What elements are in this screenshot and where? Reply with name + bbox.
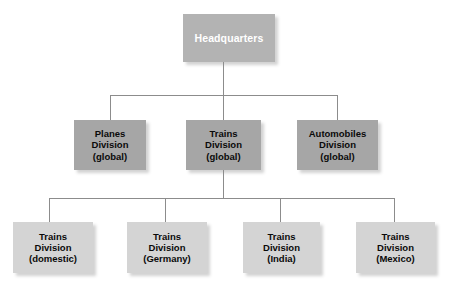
connector-trains-stem: [223, 170, 224, 198]
connector-drop-automobiles: [337, 95, 338, 120]
connector-drop-trains-germany: [165, 198, 166, 222]
connector-drop-planes: [110, 95, 111, 120]
connector-division-bus: [110, 95, 338, 96]
connector-drop-trains-india: [280, 198, 281, 222]
node-trains-division-global[interactable]: Trains Division (global): [186, 120, 261, 170]
node-automobiles-division-global[interactable]: Automobiles Division (global): [297, 120, 378, 170]
node-trains-division-india[interactable]: Trains Division (India): [243, 222, 320, 273]
connector-hq-stem: [223, 62, 224, 95]
node-trains-division-domestic[interactable]: Trains Division (domestic): [13, 222, 93, 273]
connector-drop-trains-domestic: [49, 198, 50, 222]
connector-drop-trains-mexico: [394, 198, 395, 222]
node-planes-division-global[interactable]: Planes Division (global): [74, 120, 146, 170]
node-headquarters[interactable]: Headquarters: [183, 14, 275, 62]
connector-subdivision-bus: [49, 198, 395, 199]
node-trains-division-mexico[interactable]: Trains Division (Mexico): [356, 222, 435, 273]
connector-drop-trains-global: [223, 95, 224, 120]
org-chart-canvas: Headquarters Planes Division (global) Tr…: [0, 0, 451, 291]
node-trains-division-germany[interactable]: Trains Division (Germany): [127, 222, 207, 273]
